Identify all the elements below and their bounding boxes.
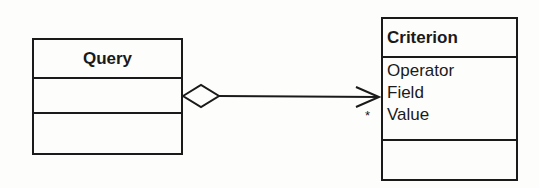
- multiplicity-label: *: [365, 108, 370, 123]
- aggregation-diamond-icon: [183, 85, 219, 107]
- association-line: [219, 96, 379, 97]
- aggregation-association: [0, 0, 539, 188]
